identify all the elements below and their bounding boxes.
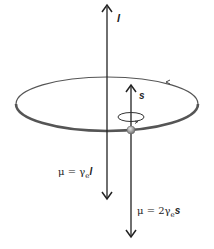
spin-moment-symbol: s xyxy=(175,205,181,216)
label-s: s xyxy=(139,90,145,101)
label-spin-moment: μ = 2γes xyxy=(137,205,180,219)
electron-sphere xyxy=(127,126,135,134)
label-l: l xyxy=(117,12,120,24)
orbital-axis xyxy=(102,5,112,199)
label-orbital-moment: μ = γel xyxy=(58,166,92,180)
diagram-canvas xyxy=(0,0,214,249)
orbital-moment-prefix: μ = γ xyxy=(58,166,85,177)
orbital-moment-symbol: l xyxy=(89,166,92,177)
spin-axis xyxy=(126,85,136,237)
spin-moment-prefix: μ = 2γ xyxy=(137,205,171,216)
